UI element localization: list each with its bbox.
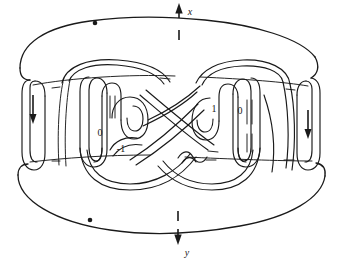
left-knot-component bbox=[62, 60, 200, 190]
left-inner-bottom-arc bbox=[94, 148, 102, 162]
knot-diagram-canvas: x y 0 -1 1 0 bbox=[0, 0, 341, 262]
basepoint-dot-top bbox=[93, 21, 98, 26]
arrow-down-icon-right bbox=[305, 129, 312, 139]
right-knot-component bbox=[158, 60, 294, 190]
right-band-group bbox=[297, 78, 320, 170]
basepoint-dot-bottom bbox=[88, 218, 93, 223]
center-diagonal-up-2 bbox=[136, 110, 204, 165]
left-band-strand-outer bbox=[22, 80, 45, 170]
axis-top-group bbox=[175, 3, 182, 40]
right-arc-outer-top-2 bbox=[202, 66, 283, 85]
axis-bottom-label: y bbox=[184, 247, 190, 258]
arrow-down-icon-bottom bbox=[174, 235, 181, 246]
band-top-left-edge bbox=[20, 68, 30, 80]
left-arc-outer-top-2 bbox=[69, 65, 164, 84]
band-top-curve bbox=[20, 17, 315, 68]
crossing-dash-2 bbox=[208, 151, 218, 152]
figure-root: x y 0 -1 1 0 bbox=[0, 0, 341, 262]
left-diagonal-strand-b bbox=[65, 80, 70, 166]
dash-left-1 bbox=[52, 87, 60, 88]
left-loop-strand-2 bbox=[89, 78, 107, 161]
band-top-right-edge bbox=[311, 57, 318, 78]
crossing-dash-1 bbox=[160, 78, 170, 79]
center-diagonal-down-2 bbox=[146, 90, 214, 145]
coefficient-label-left-outer: 0 bbox=[98, 127, 103, 138]
coefficient-label-right-outer: 1 bbox=[212, 103, 217, 114]
coefficient-label-left-inner: -1 bbox=[117, 143, 125, 154]
right-lower-arc-2 bbox=[163, 150, 253, 184]
right-band-strand-inner bbox=[297, 81, 306, 95]
left-diagonal-strand-a bbox=[58, 82, 63, 165]
coefficient-label-right-inner: 0 bbox=[238, 105, 243, 116]
left-diagonal-strands bbox=[58, 80, 70, 166]
right-swirl-inner bbox=[197, 119, 213, 132]
dash-right-1 bbox=[286, 89, 295, 90]
axis-top-label: x bbox=[187, 6, 193, 17]
band-bottom-curve bbox=[18, 175, 325, 233]
left-swirl-inner bbox=[127, 106, 143, 131]
arrow-up-icon-top bbox=[175, 3, 182, 14]
outer-band-group bbox=[18, 17, 325, 233]
left-band-group bbox=[22, 80, 45, 170]
right-loop-strand-2 bbox=[233, 79, 251, 161]
right-connector-1 bbox=[283, 82, 288, 168]
band-bottom-left-edge bbox=[18, 164, 28, 175]
band-inner-top-line bbox=[33, 75, 175, 85]
right-connector-2 bbox=[290, 84, 294, 170]
right-cusp-strand bbox=[219, 84, 238, 121]
axis-bottom-group bbox=[174, 211, 181, 245]
